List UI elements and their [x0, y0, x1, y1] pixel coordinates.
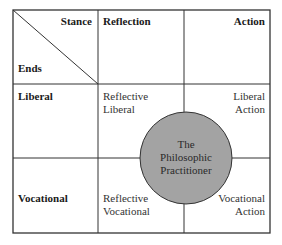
cell-line: Reflective: [103, 192, 150, 205]
cell-liberal-action: Liberal Action: [200, 90, 265, 116]
circle-line: Practitioner: [146, 164, 226, 177]
circle-line: The: [146, 138, 226, 151]
row-header-vocational: Vocational: [18, 192, 68, 205]
column-axis-label: Stance: [40, 15, 92, 28]
row-header-liberal: Liberal: [18, 90, 53, 103]
philosophic-practitioner-diagram: Stance Ends Reflection Action Liberal Vo…: [0, 0, 282, 245]
center-circle-label: The Philosophic Practitioner: [146, 138, 226, 177]
column-header-reflection: Reflection: [103, 15, 151, 28]
column-header-action: Action: [200, 15, 265, 28]
cell-reflective-liberal: Reflective Liberal: [103, 90, 148, 116]
cell-line: Vocational: [103, 205, 150, 218]
cell-line: Liberal: [200, 90, 265, 103]
cell-vocational-action: Vocational Action: [195, 192, 265, 218]
cell-reflective-vocational: Reflective Vocational: [103, 192, 150, 218]
circle-line: Philosophic: [146, 151, 226, 164]
cell-line: Action: [195, 205, 265, 218]
cell-line: Vocational: [195, 192, 265, 205]
row-axis-label: Ends: [18, 62, 42, 75]
cell-line: Action: [200, 103, 265, 116]
cell-line: Reflective: [103, 90, 148, 103]
cell-line: Liberal: [103, 103, 148, 116]
